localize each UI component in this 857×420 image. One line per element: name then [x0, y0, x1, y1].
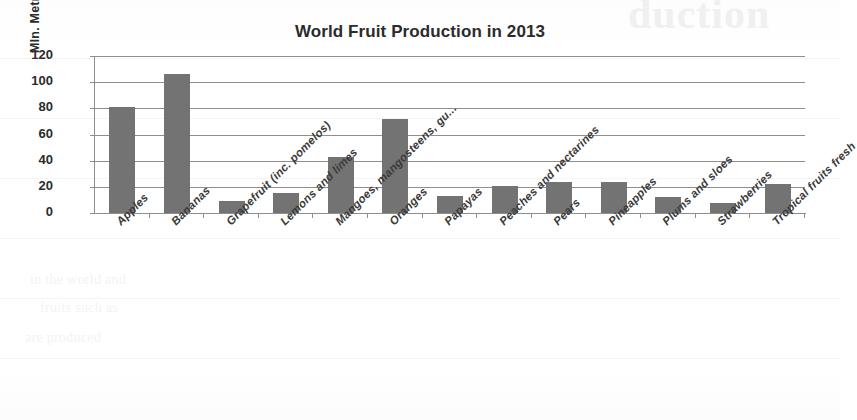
- y-axis-tick-label: 100: [13, 73, 53, 88]
- y-axis-tick-label: 60: [13, 126, 53, 141]
- y-axis-title: Mln. Metric Tonnes: [26, 0, 44, 74]
- bar-slot: [477, 56, 532, 213]
- bar-slot: [95, 56, 150, 213]
- y-axis-tick-label: 80: [13, 99, 53, 114]
- y-axis-tick-label: 20: [13, 178, 53, 193]
- bar-slot: [204, 56, 259, 213]
- chart-title: World Fruit Production in 2013: [0, 22, 840, 42]
- y-axis-tick-label: 0: [13, 204, 53, 219]
- bar[interactable]: [109, 107, 135, 213]
- y-axis-tick-label: 40: [13, 152, 53, 167]
- x-axis-category-labels: ApplesBananasGrapefruit (inc. pomelos)Le…: [95, 219, 805, 369]
- bar-slot: [150, 56, 205, 213]
- y-axis-tick-label: 120: [13, 47, 53, 62]
- bar[interactable]: [164, 74, 190, 213]
